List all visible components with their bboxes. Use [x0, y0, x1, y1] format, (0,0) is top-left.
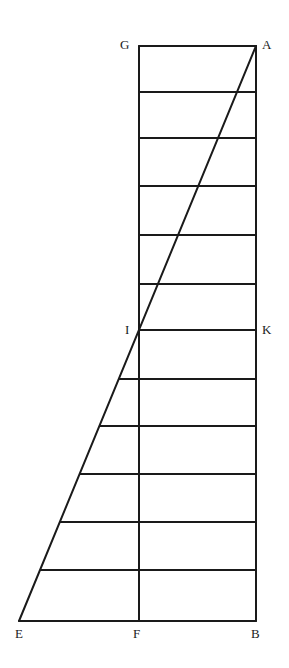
label-F: F — [133, 627, 140, 640]
label-G: G — [120, 38, 129, 51]
label-A: A — [262, 38, 271, 51]
diagonal-AE — [19, 46, 256, 621]
label-B: B — [251, 627, 260, 640]
diagram-canvas — [0, 0, 289, 668]
label-K: K — [262, 323, 271, 336]
label-E: E — [15, 627, 23, 640]
label-I: I — [125, 323, 129, 336]
